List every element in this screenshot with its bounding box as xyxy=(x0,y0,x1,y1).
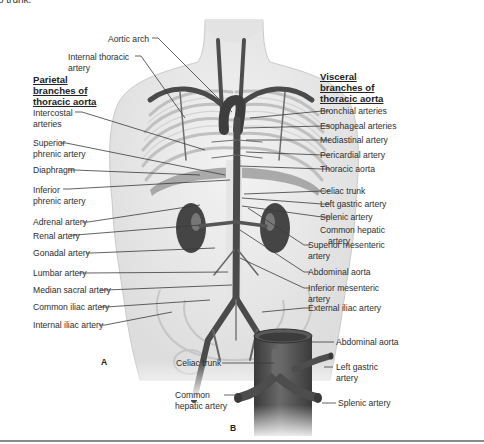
label-superior-phrenic-artery: Superior phrenic artery xyxy=(33,138,86,159)
label-esophageal-arteries: Esophageal arteries xyxy=(320,121,396,132)
label-superior-mesenteric-artery: Superior mesenteric artery xyxy=(308,240,385,261)
inset-label-celiac-trunk: Celiac trunk xyxy=(176,358,221,369)
label-gonadal-artery: Gonadal artery xyxy=(33,248,90,259)
label-adrenal-artery: Adrenal artery xyxy=(33,217,87,228)
label-median-sacral-artery: Median sacral artery xyxy=(33,285,111,296)
panel-label-b: B xyxy=(230,423,236,433)
label-aortic-arch: Aortic arch xyxy=(108,34,149,45)
inset-label-common-hepatic-artery: Common hepatic artery xyxy=(175,390,227,411)
label-inferior-phrenic-artery: Inferior phrenic artery xyxy=(33,185,86,206)
label-left-gastric-artery: Left gastric artery xyxy=(320,199,386,210)
left-kidney xyxy=(176,203,206,253)
label-pericardial-artery: Pericardial artery xyxy=(320,150,385,161)
parietal-heading: Parietal branches of thoracic aorta xyxy=(33,74,96,107)
label-splenic-artery: Splenic artery xyxy=(320,212,373,223)
label-abdominal-aorta: Abdominal aorta xyxy=(308,267,371,278)
inset-label-splenic-artery: Splenic artery xyxy=(338,398,391,409)
inset-label-abdominal-aorta: Abdominal aorta xyxy=(336,337,399,348)
label-external-iliac-artery: External iliac artery xyxy=(308,303,381,314)
label-internal-thoracic-artery: Internal thoracic artery xyxy=(68,52,129,73)
visceral-heading: Visceral branches of thoracic aorta xyxy=(320,71,383,104)
label-lumbar-artery: Lumbar artery xyxy=(33,268,87,279)
label-inferior-mesenteric-artery: Inferior mesenteric artery xyxy=(308,283,379,304)
label-intercostal-arteries: Intercostal arteries xyxy=(33,108,73,129)
label-diaphragm: Diaphragm xyxy=(33,165,75,176)
inset-label-left-gastric-artery: Left gastric artery xyxy=(336,362,378,383)
label-mediastinal-artery: Mediastinal artery xyxy=(320,135,388,146)
label-renal-artery: Renal artery xyxy=(33,231,80,242)
label-common-iliac-artery: Common iliac artery xyxy=(33,302,109,313)
label-thoracic-aorta: Thoracic aorta xyxy=(320,164,375,175)
label-celiac-trunk: Celiac trunk xyxy=(320,186,365,197)
bottom-divider xyxy=(0,440,484,442)
panel-label-a: A xyxy=(101,357,107,367)
label-bronchial-arteries: Bronchial arteries xyxy=(320,106,387,117)
label-internal-iliac-artery: Internal iliac artery xyxy=(33,320,103,331)
